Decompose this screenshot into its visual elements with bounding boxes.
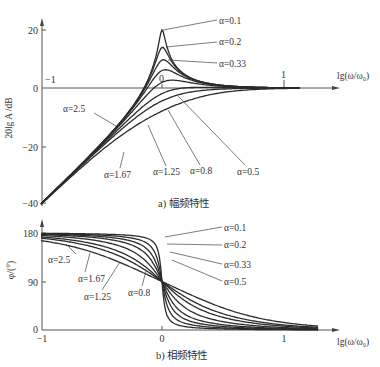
mag-label-alpha-1.67: α=1.67 (104, 170, 131, 180)
phase-label-alpha-0.5: α=0.5 (224, 277, 246, 287)
mag-label-alpha-0.33: α=0.33 (219, 59, 246, 69)
mag-tick-20: 20 (28, 25, 38, 36)
bode-figure: 20 0 −20 −40 −1 0 1 lg(ω/ω₀) 20lg A /dB … (0, 0, 380, 367)
phase-label-alpha-0.8: α=0.8 (128, 288, 150, 298)
phase-label-alpha-1.25: α=1.25 (84, 292, 111, 302)
phase-tick-180: 180 (23, 228, 38, 239)
mag-xtick-1: 1 (281, 69, 286, 80)
phase-label-alpha-2.5: α=2.5 (48, 255, 70, 265)
phase-xtick-0: 0 (160, 333, 165, 344)
phase-label-alpha-0.33: α=0.33 (224, 260, 251, 270)
phase-label-alpha-0.2: α=0.2 (224, 240, 246, 250)
mag-tick-m20: −20 (22, 142, 38, 153)
phase-caption: b) 相频特性 (156, 349, 207, 362)
phase-plot: 180 90 0 −1 0 1 lg(ω/ω₀) φ/(°) α=0.1 α=0… (6, 219, 369, 362)
mag-caption: a) 幅频特性 (158, 197, 209, 210)
mag-label-alpha-0.1: α=0.1 (219, 16, 241, 26)
mag-label-alpha-0.8: α=0.8 (190, 166, 212, 176)
mag-label-alpha-1.25: α=1.25 (153, 167, 180, 177)
mag-tick-m40: −40 (22, 198, 38, 209)
magnitude-plot: 20 0 −20 −40 −1 0 1 lg(ω/ω₀) 20lg A /dB … (4, 16, 369, 210)
mag-label-alpha-0.2: α=0.2 (219, 37, 241, 47)
mag-curve-alpha-0.1 (41, 30, 300, 204)
phase-tick-90: 90 (28, 277, 38, 288)
mag-curve-alpha-0.8 (41, 80, 300, 204)
phase-xtick-1: 1 (282, 333, 287, 344)
phase-xtick-m1: −1 (37, 333, 48, 344)
phase-y-label: φ/(°) (6, 261, 17, 279)
mag-x-axis-arrow-icon (332, 86, 340, 90)
mag-y-axis-arrow-icon (40, 18, 44, 26)
phase-y-axis-arrow-icon (40, 219, 44, 227)
mag-tick-0: 0 (33, 83, 38, 94)
mag-y-label: 20lg A /dB (4, 97, 14, 138)
mag-curves (41, 30, 300, 205)
mag-label-alpha-0.5: α=0.5 (237, 167, 259, 177)
phase-x-axis-arrow-icon (332, 328, 340, 332)
phase-label-alpha-0.1: α=0.1 (224, 223, 246, 233)
mag-curve-alpha-0.33 (41, 60, 300, 204)
phase-label-alpha-1.67: α=1.67 (78, 274, 105, 284)
mag-label-alpha-2.5: α=2.5 (63, 104, 85, 114)
phase-x-label: lg(ω/ω₀) (337, 337, 369, 348)
mag-x-label: lg(ω/ω₀) (337, 71, 369, 82)
mag-xtick-m1: −1 (45, 74, 56, 85)
